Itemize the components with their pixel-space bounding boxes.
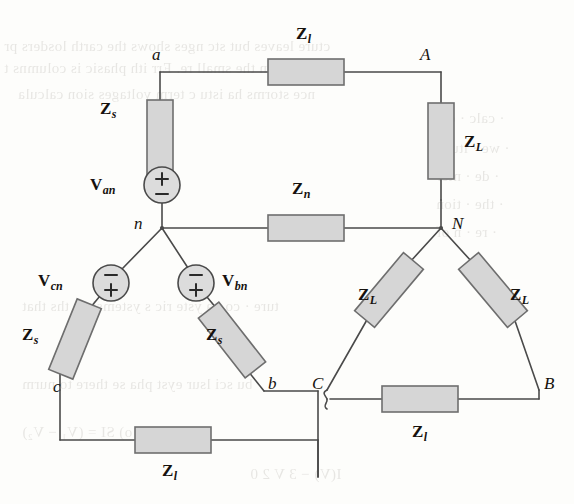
wire-N-to-zL-right bbox=[441, 228, 472, 262]
node-label-A: A bbox=[420, 46, 430, 63]
node-label-a: a bbox=[152, 46, 161, 63]
component-z-l-top bbox=[268, 59, 344, 85]
source-v-an bbox=[144, 167, 180, 203]
component-z-l-bottom-left bbox=[135, 427, 211, 453]
label-v-cn: Vcn bbox=[38, 272, 62, 289]
component-z-n-middle bbox=[268, 215, 344, 241]
label-z-L-right: ZL bbox=[464, 133, 483, 150]
source-v-bn bbox=[178, 265, 214, 301]
label-z-n-middle: Zn bbox=[292, 180, 310, 197]
component-z-l-bottom-right bbox=[382, 386, 458, 412]
wire-N-to-zL-left bbox=[410, 228, 441, 262]
node-label-B: B bbox=[544, 375, 554, 392]
circuit-schematic bbox=[0, 0, 574, 504]
node-label-C: C bbox=[312, 375, 323, 392]
wire-n-to-vbn bbox=[162, 228, 188, 268]
label-z-s-lower-right: Zs bbox=[206, 326, 222, 343]
label-z-L-lower-right: ZL bbox=[510, 286, 529, 303]
label-v-bn: Vbn bbox=[222, 272, 247, 289]
component-z-s-lower-left bbox=[49, 299, 102, 379]
wire-hop-at-C bbox=[324, 390, 327, 409]
wire-n-to-vcn bbox=[122, 228, 162, 269]
label-v-an: Van bbox=[90, 176, 115, 193]
label-z-s-left: Zs bbox=[100, 100, 116, 117]
component-z-s-left bbox=[147, 100, 173, 176]
node-label-N: N bbox=[452, 215, 463, 232]
figure-canvas: cture leaves but stc nges shows the cart… bbox=[0, 0, 574, 504]
node-label-b: b bbox=[268, 375, 277, 392]
node-label-n: n bbox=[134, 215, 143, 232]
node-label-c: c bbox=[53, 378, 61, 395]
component-z-L-right bbox=[428, 103, 454, 179]
label-z-l-bottom-right: Zl bbox=[412, 423, 427, 440]
label-z-L-lower-left: ZL bbox=[358, 286, 377, 303]
label-z-l-bottom-left: Zl bbox=[162, 462, 177, 479]
wire-zL-right-to-B bbox=[514, 318, 539, 390]
source-v-cn bbox=[93, 265, 129, 301]
label-z-s-lower-left: Zs bbox=[22, 326, 38, 343]
wire-b-to-C bbox=[264, 391, 318, 477]
label-z-l-top: Zl bbox=[296, 25, 311, 42]
wire-zL-left-to-C bbox=[327, 318, 368, 390]
